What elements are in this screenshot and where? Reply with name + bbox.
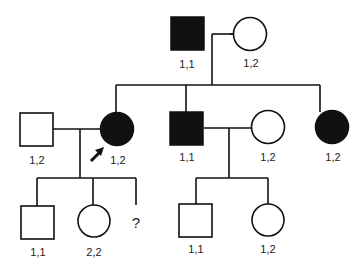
gen3-brother-daughter-female <box>252 204 284 236</box>
genotype-label: 1,2 <box>29 154 44 166</box>
genotype-label: 1,1 <box>179 151 194 163</box>
gen1-father-affected-male <box>171 17 204 50</box>
gen2-proband-affected-female <box>101 113 134 146</box>
genotype-label: 2,2 <box>86 246 101 258</box>
pedigree-diagram: 1,1 1,2 1,2 1,2 1,1 1,2 1,2 1,1 2,2 ? 1,… <box>0 0 362 273</box>
genotype-label: 1,2 <box>260 151 275 163</box>
gen3-proband-daughter-female <box>78 205 110 237</box>
gen3-brother-son-male <box>179 204 212 237</box>
gen2-spouse-male <box>20 113 53 146</box>
genotype-label: 1,2 <box>110 154 125 166</box>
proband-arrow-icon <box>91 147 104 161</box>
genotype-label: 1,1 <box>30 246 45 258</box>
genotype-label: 1,2 <box>325 151 340 163</box>
gen1-mother-female <box>234 18 267 51</box>
gen2-sister-affected-female <box>316 111 349 144</box>
gen2-brother-affected-male <box>170 112 203 145</box>
gen2-brother-spouse-female <box>252 111 285 144</box>
genotype-label: 1,2 <box>260 243 275 255</box>
unknown-child-label: ? <box>132 214 140 231</box>
genotype-label: 1,1 <box>179 58 194 70</box>
genotype-label: 1,1 <box>188 243 203 255</box>
gen3-proband-son-male <box>21 206 54 239</box>
genotype-label: 1,2 <box>243 57 258 69</box>
